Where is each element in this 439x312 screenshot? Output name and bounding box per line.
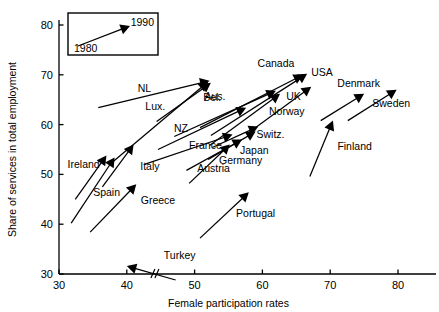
y-axis-title: Share of services in total employment	[6, 62, 18, 237]
country-label-nl: NL	[138, 82, 152, 94]
y-tick-label: 80	[41, 19, 53, 31]
x-tick-label: 50	[188, 279, 200, 291]
y-tick-label: 60	[41, 119, 53, 131]
country-label-switz: Switz.	[257, 128, 285, 140]
country-label-nz: NZ	[174, 122, 189, 134]
x-axis-title: Female participation rates	[168, 297, 289, 309]
arrow-finland	[310, 121, 334, 177]
chart-legend: 19801990	[68, 13, 158, 55]
scatter-chart-arrows: 304050607080304050607080Female participa…	[0, 0, 439, 312]
country-label-italy: Italy	[140, 160, 160, 172]
x-tick-label: 70	[324, 279, 336, 291]
country-labels-layer: IrelandSpainItalyGreeceTurkeyNLLux.Bel.N…	[68, 57, 411, 261]
country-label-norway: Norway	[269, 105, 305, 117]
country-arrows-layer	[71, 74, 396, 280]
x-tick-label: 80	[392, 279, 404, 291]
country-label-ireland: Ireland	[68, 158, 100, 170]
country-label-aus: Aus.	[204, 90, 225, 102]
legend-start-label: 1980	[74, 42, 98, 54]
x-tick-label: 40	[121, 279, 133, 291]
country-label-usa: USA	[311, 66, 333, 78]
country-label-uk: UK	[286, 90, 301, 102]
y-tick-label: 40	[41, 218, 53, 230]
country-label-turkey: Turkey	[164, 249, 196, 261]
legend-end-label: 1990	[131, 16, 155, 28]
country-label-lux: Lux.	[145, 100, 165, 112]
country-label-canada: Canada	[258, 57, 295, 69]
arrow-italy	[102, 145, 133, 187]
y-tick-label: 50	[41, 168, 53, 180]
country-label-japan: Japan	[240, 144, 269, 156]
country-label-denmark: Denmark	[337, 77, 380, 89]
x-tick-label: 60	[256, 279, 268, 291]
country-label-greece: Greece	[141, 194, 176, 206]
country-label-spain: Spain	[93, 186, 120, 198]
chart-svg: 304050607080304050607080Female participa…	[0, 0, 439, 312]
country-label-sweden: Sweden	[372, 97, 410, 109]
country-label-portugal: Portugal	[236, 207, 275, 219]
y-tick-label: 70	[41, 69, 53, 81]
y-tick-label: 30	[41, 268, 53, 280]
country-label-finland: Finland	[337, 140, 372, 152]
x-tick-label: 30	[53, 279, 65, 291]
arrow-denmark	[321, 94, 364, 121]
country-label-france: France	[189, 139, 222, 151]
